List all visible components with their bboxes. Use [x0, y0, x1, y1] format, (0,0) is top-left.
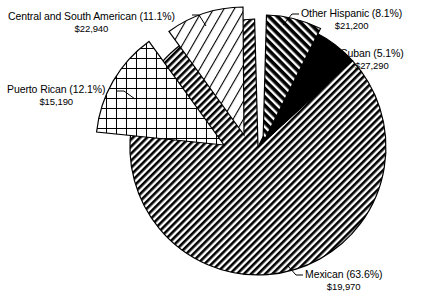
slice-label-title: Puerto Rican (12.1%) — [7, 83, 105, 96]
slice-label-value: $21,200 — [301, 20, 402, 33]
slice-label-mexican: Mexican (63.6%) $19,970 — [305, 268, 382, 293]
slice-label-value: $19,970 — [305, 281, 382, 294]
slice-label-title: Mexican (63.6%) — [305, 268, 382, 281]
slice-label-other-hispanic: Other Hispanic (8.1%) $21,200 — [301, 7, 402, 32]
slice-label-value: $15,190 — [7, 96, 105, 109]
slice-label-title: Other Hispanic (8.1%) — [301, 7, 402, 20]
slice-label-central-and-south-american: Central and South American (11.1%) $22,9… — [8, 10, 175, 35]
slice-label-cuban: Cuban (5.1%) $27,290 — [340, 47, 404, 72]
slice-label-title: Cuban (5.1%) — [340, 47, 404, 60]
pie-chart-figure: Central and South American (11.1%) $22,9… — [0, 0, 430, 304]
slice-label-value: $27,290 — [340, 60, 404, 73]
slice-label-value: $22,940 — [8, 23, 175, 36]
slice-label-title: Central and South American (11.1%) — [8, 10, 175, 23]
slice-label-puerto-rican: Puerto Rican (12.1%) $15,190 — [7, 83, 105, 108]
pie-chart-canvas — [0, 0, 430, 304]
